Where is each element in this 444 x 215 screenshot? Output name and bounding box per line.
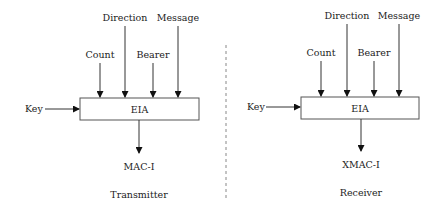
bearer-label: Bearer bbox=[358, 47, 391, 58]
eia-block-label: EIA bbox=[131, 104, 149, 115]
transmitter-panel: EIA Count Direction Bearer Message Key M… bbox=[25, 12, 200, 200]
direction-label: Direction bbox=[325, 10, 370, 21]
key-label: Key bbox=[25, 103, 43, 114]
mac-i-label: MAC-I bbox=[124, 161, 155, 172]
message-label: Message bbox=[157, 12, 200, 23]
receiver-panel: EIA Count Direction Bearer Message Key X… bbox=[247, 10, 421, 198]
message-label: Message bbox=[378, 10, 421, 21]
bearer-label: Bearer bbox=[137, 49, 170, 60]
receiver-caption: Receiver bbox=[340, 187, 383, 198]
eia-block-label: EIA bbox=[351, 103, 369, 114]
count-label: Count bbox=[85, 49, 114, 60]
key-label: Key bbox=[247, 101, 265, 112]
eia-diagram: EIA Count Direction Bearer Message Key M… bbox=[0, 0, 444, 215]
direction-label: Direction bbox=[103, 12, 148, 23]
count-label: Count bbox=[306, 47, 335, 58]
transmitter-caption: Transmitter bbox=[110, 189, 168, 200]
xmac-i-label: XMAC-I bbox=[342, 159, 380, 170]
